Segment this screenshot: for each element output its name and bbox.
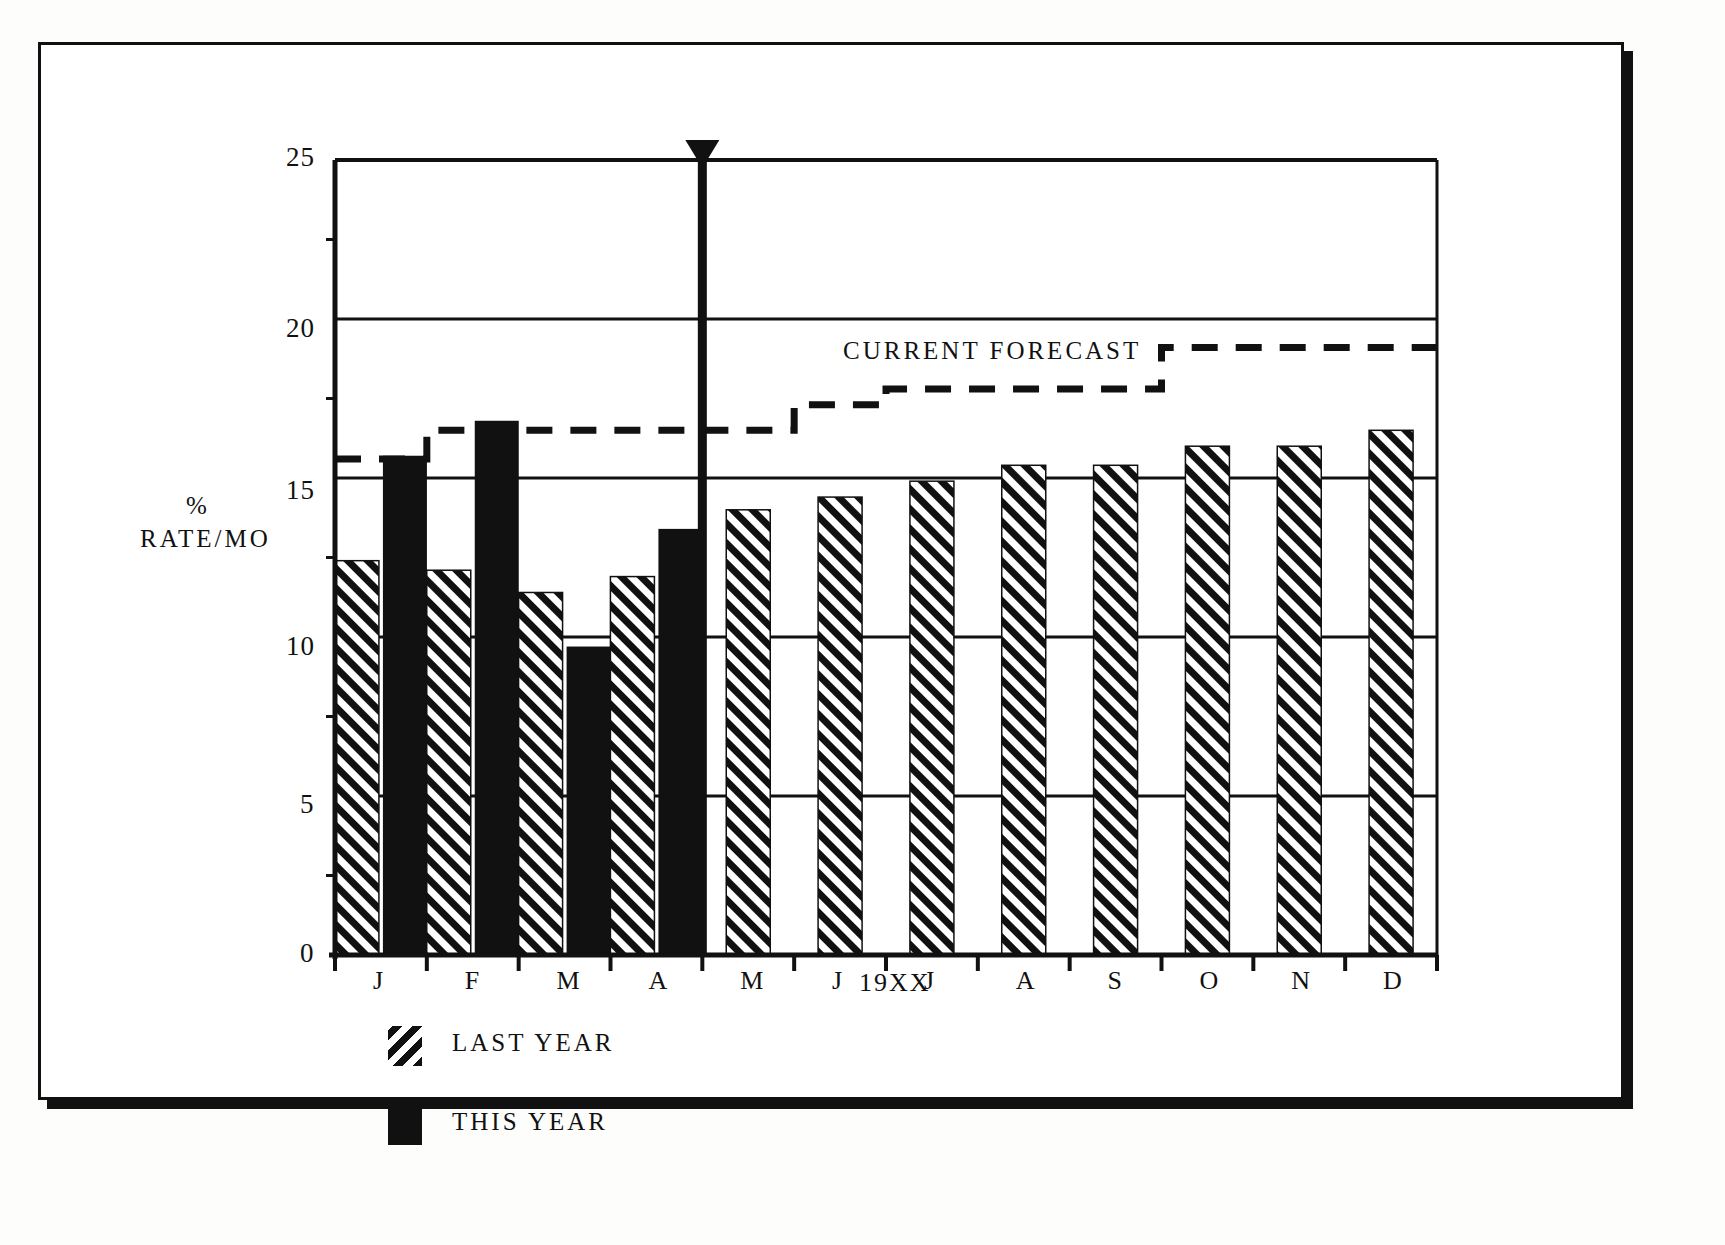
y-axis-title-percent: % — [186, 492, 210, 520]
x-tick-label-9: O — [1199, 966, 1219, 996]
bar-last-year-d-11 — [1369, 430, 1413, 955]
bar-last-year-n-10 — [1277, 446, 1321, 955]
today-marker-arrowhead — [685, 140, 719, 168]
legend-swatch-last-year — [388, 1026, 422, 1066]
bar-last-year-o-9 — [1185, 446, 1229, 955]
x-tick-label-5: J — [832, 966, 843, 996]
x-tick-label-4: M — [740, 966, 764, 996]
legend-label-this-year: THIS YEAR — [452, 1108, 608, 1136]
bar-last-year-f-1 — [427, 570, 471, 955]
legend-swatch-this-year — [388, 1105, 422, 1145]
legend-label-last-year: LAST YEAR — [452, 1029, 614, 1057]
y-tick-25: 25 — [286, 142, 315, 173]
bar-this-year-j-0 — [383, 456, 427, 955]
y-tick-5: 5 — [300, 789, 315, 820]
x-tick-label-3: A — [648, 966, 668, 996]
y-axis-title-rate: RATE/MO — [140, 525, 271, 553]
x-tick-label-8: S — [1108, 966, 1123, 996]
bar-last-year-m-4 — [726, 510, 770, 955]
bar-group — [335, 421, 1413, 955]
figure-page: 25 20 15 10 5 0 % RATE/MO JFMAMJJASOND 1… — [0, 0, 1725, 1245]
x-tick-label-11: D — [1383, 966, 1403, 996]
bar-this-year-f-1 — [475, 421, 519, 955]
bar-this-year-m-2 — [567, 647, 611, 955]
y-tick-10: 10 — [286, 631, 315, 662]
x-tick-label-0: J — [373, 966, 384, 996]
y-tick-15: 15 — [286, 475, 315, 506]
bar-last-year-s-8 — [1094, 465, 1138, 955]
y-tick-0: 0 — [300, 938, 315, 969]
bar-last-year-a-7 — [1002, 465, 1046, 955]
bar-last-year-j-0 — [335, 561, 379, 955]
x-axis-title: 19XX — [859, 968, 931, 998]
x-tick-label-7: A — [1016, 966, 1036, 996]
chart-area: 25 20 15 10 5 0 % RATE/MO JFMAMJJASOND 1… — [0, 0, 1725, 1245]
bar-last-year-j-5 — [818, 497, 862, 955]
x-tick-label-10: N — [1291, 966, 1311, 996]
bar-last-year-a-3 — [610, 577, 654, 955]
chart-svg — [0, 0, 1725, 1245]
bar-this-year-a-3 — [658, 529, 702, 955]
bar-last-year-m-2 — [519, 592, 563, 955]
forecast-annotation-label: CURRENT FORECAST — [843, 337, 1141, 365]
bar-last-year-j-6 — [910, 481, 954, 955]
y-tick-20: 20 — [286, 313, 315, 344]
x-tick-label-1: F — [465, 966, 480, 996]
x-tick-label-2: M — [557, 966, 581, 996]
